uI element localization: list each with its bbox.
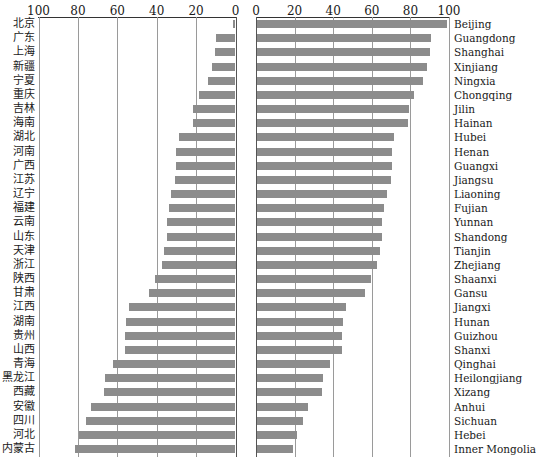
right-bar <box>257 133 394 141</box>
right-bar <box>257 275 371 283</box>
right-tick-label: 80 <box>403 4 418 18</box>
right-bar <box>257 360 330 368</box>
category-label-en: Ningxia <box>454 74 496 88</box>
category-label-cn: 浙江 <box>0 258 35 272</box>
right-tick-label: 0 <box>252 4 260 18</box>
right-tick-label: 60 <box>364 4 379 18</box>
left-bar <box>167 218 236 226</box>
right-bar <box>257 63 427 71</box>
category-label-en: Jiangxi <box>454 300 491 314</box>
right-bar <box>257 445 293 453</box>
left-axis-line <box>38 17 236 18</box>
category-label-cn: 湖北 <box>0 130 35 144</box>
category-label-cn: 西藏 <box>0 385 35 399</box>
left-tick-label: 80 <box>70 4 85 18</box>
category-label-en: Tianjin <box>454 244 491 258</box>
left-bar <box>125 346 235 354</box>
category-label-cn: 江苏 <box>0 173 35 187</box>
right-bar <box>257 303 346 311</box>
left-bar <box>233 20 236 28</box>
category-label-cn: 黑龙江 <box>0 371 35 385</box>
category-label-en: Chongqing <box>454 88 512 102</box>
category-label-en: Shanxi <box>454 343 490 357</box>
category-label-en: Shandong <box>454 230 508 244</box>
category-label-en: Guangdong <box>454 31 515 45</box>
right-bar <box>257 204 384 212</box>
category-label-en: Beijing <box>454 17 491 31</box>
category-label-cn: 宁夏 <box>0 74 35 88</box>
right-tick-label: 20 <box>287 4 302 18</box>
left-bar <box>149 289 236 297</box>
right-bar <box>257 77 423 85</box>
left-bar <box>126 318 235 326</box>
left-bar <box>162 261 236 269</box>
category-label-en: Hunan <box>454 315 490 329</box>
category-label-en: Henan <box>454 145 489 159</box>
category-label-cn: 内蒙古 <box>0 442 35 456</box>
left-bar <box>113 360 235 368</box>
left-bar <box>175 176 235 184</box>
category-label-en: Liaoning <box>454 187 501 201</box>
category-label-cn: 山东 <box>0 230 35 244</box>
right-bar <box>257 417 303 425</box>
category-label-cn: 云南 <box>0 215 35 229</box>
category-label-cn: 四川 <box>0 414 35 428</box>
left-bar <box>171 190 235 198</box>
left-bar <box>199 91 235 99</box>
right-bar <box>257 431 297 439</box>
category-label-en: Inner Mongolia <box>454 442 536 456</box>
right-bar <box>257 91 414 99</box>
category-label-cn: 甘肃 <box>0 286 35 300</box>
category-label-cn: 广西 <box>0 159 35 173</box>
category-label-cn: 福建 <box>0 201 35 215</box>
right-bar <box>257 20 447 28</box>
category-label-cn: 山西 <box>0 343 35 357</box>
left-bar <box>75 445 236 453</box>
category-label-cn: 新疆 <box>0 60 35 74</box>
category-label-cn: 上海 <box>0 45 35 59</box>
right-axis-line <box>256 17 449 18</box>
right-bar <box>257 318 343 326</box>
category-label-cn: 海南 <box>0 116 35 130</box>
left-bar <box>215 48 236 56</box>
left-bar <box>167 233 236 241</box>
category-label-cn: 北京 <box>0 17 35 31</box>
category-label-en: Qinghai <box>454 357 496 371</box>
right-bar <box>257 162 392 170</box>
right-bar <box>257 218 382 226</box>
right-bar <box>257 346 342 354</box>
category-label-en: Hebei <box>454 428 486 442</box>
left-bar <box>129 303 235 311</box>
category-label-en: Anhui <box>454 400 485 414</box>
right-bar <box>257 148 392 156</box>
left-bar <box>125 332 235 340</box>
category-label-cn: 天津 <box>0 244 35 258</box>
right-bar <box>257 176 391 184</box>
category-label-en: Zhejiang <box>454 258 501 272</box>
right-bar <box>257 119 408 127</box>
right-bar <box>257 289 365 297</box>
category-label-cn: 河北 <box>0 428 35 442</box>
category-label-cn: 安徽 <box>0 400 35 414</box>
category-label-cn: 湖南 <box>0 315 35 329</box>
category-label-en: Guizhou <box>454 329 498 343</box>
right-bar <box>257 48 430 56</box>
category-label-cn: 贵州 <box>0 329 35 343</box>
left-bar <box>193 105 235 113</box>
left-bar <box>208 77 236 85</box>
right-bar <box>257 261 377 269</box>
left-bar <box>79 431 236 439</box>
right-bar <box>257 190 387 198</box>
left-bar <box>216 34 236 42</box>
right-bar <box>257 233 382 241</box>
category-label-en: Xizang <box>454 385 490 399</box>
left-tick-label: 40 <box>149 4 164 18</box>
left-gridline <box>78 17 79 457</box>
right-bar <box>257 105 409 113</box>
left-gridline <box>39 17 40 457</box>
category-label-cn: 广东 <box>0 31 35 45</box>
category-label-cn: 河南 <box>0 145 35 159</box>
category-label-cn: 江西 <box>0 300 35 314</box>
right-tick-label: 40 <box>326 4 341 18</box>
